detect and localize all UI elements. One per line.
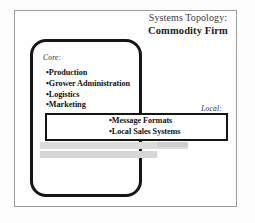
list-item: •Marketing (46, 100, 141, 111)
list-item: •Production (46, 68, 141, 79)
title-line-subject: Systems Topology: (140, 13, 236, 24)
local-group-list: •Message Formats •Local Sales Systems (109, 115, 223, 138)
list-item-label: Logistics (49, 90, 79, 99)
core-group-list: •Production •Grower Administration •Logi… (46, 68, 141, 111)
list-item-label: Grower Administration (49, 79, 130, 88)
list-item-label: Message Formats (112, 116, 172, 125)
list-item: •Message Formats (109, 115, 223, 126)
diagram-canvas: Systems Topology: Commodity Firm Core: •… (0, 0, 255, 223)
title-line-entity: Commodity Firm (140, 25, 236, 36)
list-item-label: Local Sales Systems (112, 127, 181, 136)
list-item-label: Marketing (49, 100, 86, 109)
list-item: •Local Sales Systems (109, 126, 223, 137)
list-item: •Logistics (46, 90, 141, 101)
core-group-label: Core: (43, 53, 61, 62)
diagram-title: Systems Topology: Commodity Firm (140, 13, 236, 36)
scan-shadow-artifact (157, 142, 188, 147)
list-item: •Grower Administration (46, 79, 141, 90)
list-item-label: Production (49, 68, 87, 77)
local-group-label: Local: (170, 104, 222, 113)
scan-shadow-artifact (40, 151, 157, 158)
